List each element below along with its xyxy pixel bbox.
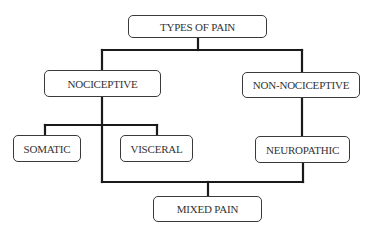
node-somatic: SOMATIC [13,135,81,162]
node-visceral: VISCERAL [120,135,193,162]
node-neuropathic: NEUROPATHIC [255,136,350,163]
node-nociceptive: NOCICEPTIVE [44,70,161,97]
node-non-nociceptive: NON-NOCICEPTIVE [242,72,360,98]
node-mixed-pain: MIXED PAIN [153,196,262,222]
node-types-of-pain: TYPES OF PAIN [128,15,267,38]
